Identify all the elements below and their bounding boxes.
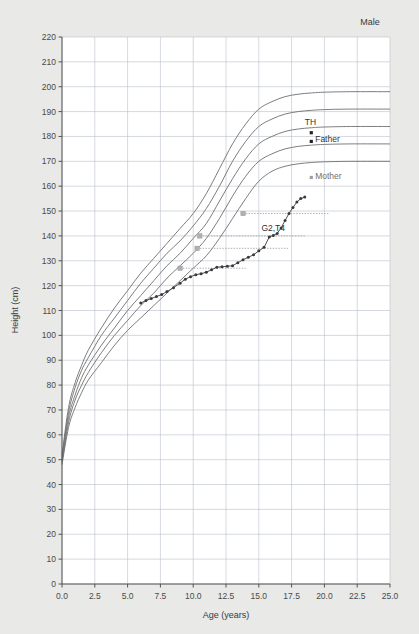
- th-label: TH: [305, 117, 316, 127]
- patient-data-point[interactable]: [231, 264, 234, 267]
- x-tick-label: 15.0: [251, 591, 268, 601]
- y-tick-label: 190: [42, 107, 56, 117]
- projection-marker: [241, 211, 245, 215]
- x-tick-label: 20.0: [316, 591, 333, 601]
- patient-data-point[interactable]: [252, 253, 255, 256]
- x-tick-label: 10.0: [185, 591, 202, 601]
- patient-data-point[interactable]: [165, 290, 168, 293]
- patient-data-point[interactable]: [160, 293, 163, 296]
- patient-data-point[interactable]: [139, 302, 142, 305]
- patient-data-point[interactable]: [210, 268, 213, 271]
- patient-data-point[interactable]: [236, 261, 239, 264]
- patient-data-point[interactable]: [144, 299, 147, 302]
- x-tick-label: 7.5: [154, 591, 166, 601]
- mother-label: Mother: [315, 171, 342, 181]
- projection-marker: [178, 266, 182, 270]
- patient-data-point[interactable]: [155, 295, 158, 298]
- patient-data-point[interactable]: [150, 297, 153, 300]
- patient-data-point[interactable]: [179, 282, 182, 285]
- y-tick-label: 50: [47, 455, 57, 465]
- y-tick-label: 120: [42, 281, 56, 291]
- patient-data-point[interactable]: [172, 286, 175, 289]
- y-tick-label: 70: [47, 405, 57, 415]
- y-tick-label: 220: [42, 32, 56, 42]
- patient-data-point[interactable]: [205, 271, 208, 274]
- stage-label: G2,T4: [261, 223, 285, 233]
- x-tick-label: 2.5: [89, 591, 101, 601]
- x-axis-title: Age (years): [203, 610, 250, 620]
- y-tick-label: 110: [42, 306, 56, 316]
- y-tick-label: 30: [47, 504, 57, 514]
- y-tick-label: 140: [42, 231, 56, 241]
- y-tick-label: 160: [42, 181, 56, 191]
- x-tick-label: 22.5: [349, 591, 366, 601]
- patient-data-point[interactable]: [189, 275, 192, 278]
- father-label: Father: [315, 134, 340, 144]
- x-tick-label: 12.5: [218, 591, 235, 601]
- y-tick-label: 180: [42, 131, 56, 141]
- y-tick-label: 90: [47, 355, 57, 365]
- patient-data-point[interactable]: [272, 234, 275, 237]
- y-tick-label: 0: [51, 579, 56, 589]
- patient-data-point[interactable]: [287, 212, 290, 215]
- patient-data-point[interactable]: [226, 265, 229, 268]
- x-tick-label: 25.0: [382, 591, 399, 601]
- patient-data-point[interactable]: [299, 197, 302, 200]
- y-tick-label: 60: [47, 430, 57, 440]
- patient-data-point[interactable]: [247, 256, 250, 259]
- patient-data-point[interactable]: [242, 258, 245, 261]
- growth-chart-figure: 0102030405060708090100110120130140150160…: [0, 0, 419, 634]
- y-tick-label: 130: [42, 256, 56, 266]
- patient-data-point[interactable]: [184, 278, 187, 281]
- panel-title-male: Male: [360, 17, 380, 27]
- x-tick-label: 0.0: [56, 591, 68, 601]
- y-axis-title: Height (cm): [10, 287, 20, 334]
- patient-data-point[interactable]: [268, 235, 271, 238]
- y-tick-label: 150: [42, 206, 56, 216]
- patient-data-point[interactable]: [291, 206, 294, 209]
- patient-data-point[interactable]: [257, 249, 260, 252]
- y-tick-label: 210: [42, 57, 56, 67]
- x-tick-label: 5.0: [122, 591, 134, 601]
- y-tick-label: 20: [47, 529, 57, 539]
- projection-marker: [198, 234, 202, 238]
- mother-marker: [310, 176, 313, 179]
- patient-data-point[interactable]: [263, 246, 266, 249]
- y-tick-label: 80: [47, 380, 57, 390]
- y-tick-label: 170: [42, 156, 56, 166]
- father-marker: [310, 140, 313, 143]
- y-tick-label: 10: [47, 554, 57, 564]
- y-tick-label: 200: [42, 82, 56, 92]
- y-tick-label: 100: [42, 330, 56, 340]
- patient-data-point[interactable]: [194, 273, 197, 276]
- y-tick-label: 40: [47, 480, 57, 490]
- patient-data-point[interactable]: [303, 196, 306, 199]
- growth-chart-svg: 0102030405060708090100110120130140150160…: [0, 0, 419, 634]
- patient-data-point[interactable]: [200, 272, 203, 275]
- th-marker: [310, 131, 313, 134]
- patient-data-point[interactable]: [215, 266, 218, 269]
- patient-data-point[interactable]: [284, 219, 287, 222]
- patient-data-point[interactable]: [221, 265, 224, 268]
- x-tick-label: 17.5: [283, 591, 300, 601]
- patient-data-point[interactable]: [295, 201, 298, 204]
- projection-marker: [195, 246, 199, 250]
